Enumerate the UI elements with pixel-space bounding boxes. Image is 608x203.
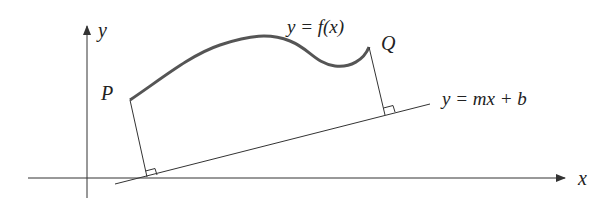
x-axis-label: x <box>578 168 587 188</box>
right-angle-marker-q <box>384 106 396 113</box>
point-p-label: P <box>101 83 113 103</box>
perpendicular-p <box>130 100 147 177</box>
curve-f <box>130 36 369 100</box>
line-y-mx-b <box>115 104 430 184</box>
point-q-label: Q <box>381 33 395 53</box>
y-axis-label: y <box>98 20 107 40</box>
curve-label: y = f(x) <box>287 17 344 36</box>
diagram: y x y = f(x) P Q y = mx + b <box>0 0 608 203</box>
line-label: y = mx + b <box>442 89 527 108</box>
perpendicular-q <box>369 47 385 115</box>
